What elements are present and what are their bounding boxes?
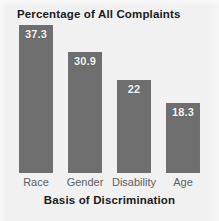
x-tick-label-age: Age — [157, 176, 209, 188]
plot-area: 37.3 30.9 22 18.3 Race Gender Disability… — [0, 0, 219, 221]
x-tick-label-disability: Disability — [108, 176, 160, 188]
x-axis-title: Basis of Discrimination — [0, 194, 219, 206]
bar-gender[interactable] — [68, 52, 102, 173]
x-tick-label-race: Race — [10, 176, 62, 188]
x-tick-label-gender: Gender — [59, 176, 111, 188]
bar-value-disability: 22 — [117, 83, 151, 95]
bar-value-race: 37.3 — [19, 28, 53, 40]
bar-chart: Percentage of All Complaints 37.3 30.9 2… — [0, 0, 219, 221]
bar-value-gender: 30.9 — [68, 55, 102, 67]
bar-race[interactable] — [19, 25, 53, 173]
bar-value-age: 18.3 — [166, 106, 200, 118]
